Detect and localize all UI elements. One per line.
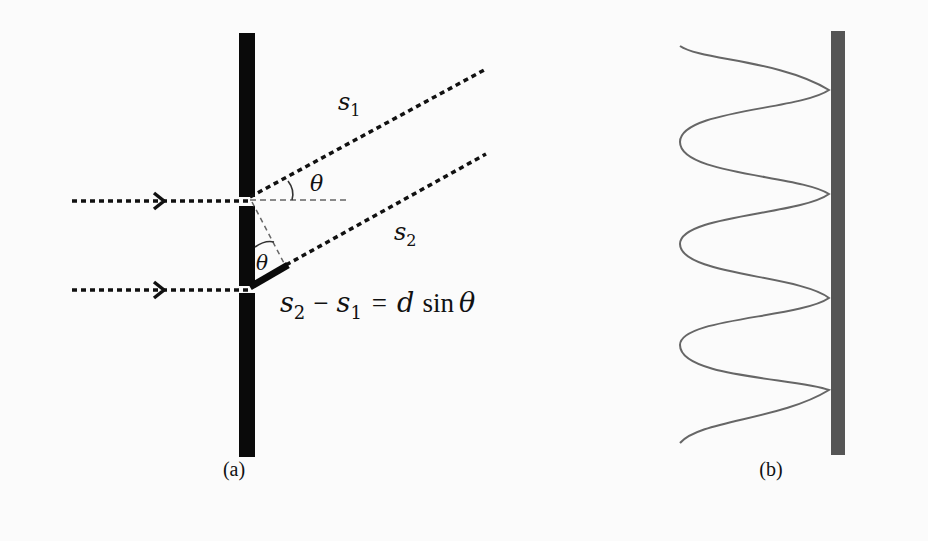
label-s1: s1 <box>338 88 361 120</box>
angle-arc-top <box>288 181 293 200</box>
label-theta-bottom: θ <box>256 251 268 275</box>
screen-bar <box>831 31 845 455</box>
diffraction-diagram: s1 θ s2 θ s2−s1=dsinθ (a) (b) <box>0 0 928 541</box>
label-theta-top: θ <box>310 171 323 196</box>
caption-a: (a) <box>223 458 245 481</box>
panel-a: s1 θ s2 θ s2−s1=dsinθ (a) <box>72 33 486 481</box>
panel-b: (b) <box>680 31 845 481</box>
caption-b: (b) <box>759 458 782 481</box>
outgoing-ray-s1 <box>250 69 486 197</box>
path-difference-equation: s2−s1=dsinθ <box>280 287 475 323</box>
label-s2: s2 <box>394 218 417 250</box>
angle-arc-bottom <box>255 242 274 247</box>
barrier-bottom <box>239 293 255 457</box>
barrier-middle <box>239 206 255 286</box>
intensity-curve <box>680 46 829 443</box>
barrier-top <box>239 33 255 197</box>
